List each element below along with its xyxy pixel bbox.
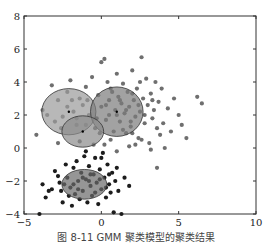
data-point <box>59 189 63 193</box>
data-point <box>44 195 48 199</box>
data-point <box>93 156 97 160</box>
data-point <box>144 77 148 81</box>
data-point <box>101 151 105 155</box>
data-point <box>133 143 137 147</box>
data-point <box>160 87 164 91</box>
data-point <box>61 200 65 204</box>
data-point <box>200 101 204 105</box>
data-point <box>105 80 109 84</box>
data-point <box>107 182 111 186</box>
data-point <box>64 162 68 166</box>
data-point <box>53 169 57 173</box>
data-point <box>115 149 119 153</box>
data-point <box>177 113 181 117</box>
data-point <box>109 190 113 194</box>
data-point <box>84 149 88 153</box>
data-point <box>82 154 86 158</box>
y-tick-label: 8 <box>14 11 20 22</box>
data-point <box>155 166 159 170</box>
data-point <box>104 195 108 199</box>
data-point <box>149 148 153 152</box>
data-point <box>99 156 103 160</box>
data-point <box>184 136 188 140</box>
ellipse-center <box>68 111 70 113</box>
data-point <box>56 174 60 178</box>
data-point <box>141 96 145 100</box>
y-tick-label: 2 <box>14 110 20 121</box>
data-point <box>99 60 103 64</box>
gaussian-ellipse <box>62 169 107 199</box>
data-point <box>34 133 38 137</box>
data-point <box>158 133 162 137</box>
data-point <box>180 123 184 127</box>
data-point <box>155 126 159 130</box>
data-point <box>112 210 116 214</box>
ellipse-center <box>82 130 84 132</box>
data-point <box>119 212 123 216</box>
data-point <box>87 164 91 168</box>
data-point <box>109 138 113 142</box>
data-point <box>161 121 165 125</box>
data-point <box>107 172 111 176</box>
data-point <box>70 204 74 208</box>
data-point <box>68 78 72 82</box>
data-point <box>116 189 120 193</box>
data-point <box>127 144 131 148</box>
data-point <box>121 82 125 86</box>
data-point <box>166 106 170 110</box>
y-tick-label: −2 <box>5 176 20 187</box>
data-point <box>147 141 151 145</box>
data-point <box>163 146 167 150</box>
data-point <box>98 167 102 171</box>
data-point <box>115 72 119 76</box>
data-point <box>156 100 160 104</box>
data-point <box>127 184 131 188</box>
data-point <box>71 166 75 170</box>
data-point <box>153 80 157 84</box>
data-point <box>172 96 176 100</box>
data-point <box>40 182 44 186</box>
data-point <box>195 95 199 99</box>
data-point <box>50 83 54 87</box>
x-tick-label: 5 <box>175 217 181 228</box>
y-tick-label: −4 <box>5 209 20 220</box>
data-point <box>138 80 142 84</box>
x-tick-label: 10 <box>250 217 263 228</box>
data-point <box>102 143 106 147</box>
y-tick-label: 4 <box>14 77 20 88</box>
data-point <box>74 159 78 163</box>
data-point <box>150 98 154 102</box>
data-point <box>50 187 54 191</box>
data-point <box>150 116 154 120</box>
data-point <box>37 212 41 216</box>
data-point <box>149 91 153 95</box>
x-tick-label: 0 <box>98 217 104 228</box>
data-point <box>139 55 143 59</box>
data-point <box>130 68 134 72</box>
data-point <box>105 162 109 166</box>
data-point <box>146 103 150 107</box>
y-tick-label: 0 <box>14 143 20 154</box>
data-point <box>85 200 89 204</box>
data-point <box>96 202 100 206</box>
data-point <box>122 176 126 180</box>
data-point <box>143 121 147 125</box>
ellipse-center <box>116 111 118 113</box>
y-tick-label: 6 <box>14 44 20 55</box>
data-point <box>113 179 117 183</box>
data-point <box>152 108 156 112</box>
data-point <box>84 85 88 89</box>
data-point <box>169 129 173 133</box>
data-point <box>102 57 106 61</box>
figure-caption: 图 8-11 GMM 聚类模型的聚类结果 <box>0 229 272 244</box>
data-point <box>135 87 139 91</box>
data-point <box>90 75 94 79</box>
data-point <box>57 181 61 185</box>
data-point <box>56 141 60 145</box>
data-point <box>139 138 143 142</box>
data-point <box>115 166 119 170</box>
